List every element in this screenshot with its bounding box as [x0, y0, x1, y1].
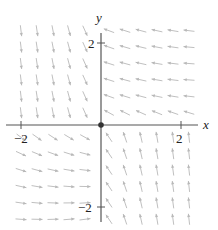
arrowhead-icon	[123, 198, 126, 202]
arrowhead-icon	[152, 45, 155, 48]
y-axis-label: y	[94, 10, 102, 25]
arrowhead-icon	[23, 218, 26, 221]
vector-field-plot: x y 2 −2 −2 2	[0, 0, 218, 230]
arrowhead-icon	[71, 218, 74, 221]
arrowhead-icon	[139, 214, 142, 217]
arrowhead-icon	[152, 94, 155, 97]
arrowhead-icon	[184, 78, 187, 81]
arrowhead-icon	[123, 148, 126, 152]
arrowhead-icon	[152, 29, 155, 32]
arrowhead-icon	[184, 45, 187, 48]
arrowhead-icon	[139, 148, 142, 151]
origin-dot	[98, 122, 104, 128]
arrowhead-icon	[55, 218, 58, 221]
arrowhead-icon	[52, 33, 55, 36]
arrowhead-icon	[139, 181, 142, 184]
arrowhead-icon	[52, 98, 55, 101]
x-tick-label-2: 2	[176, 131, 183, 146]
arrowhead-icon	[52, 49, 55, 52]
arrowhead-icon	[52, 115, 55, 118]
arrowhead-icon	[123, 165, 126, 169]
arrowhead-icon	[55, 169, 58, 172]
arrowhead-icon	[123, 214, 126, 218]
arrowhead-icon	[136, 61, 139, 64]
arrowhead-icon	[52, 65, 55, 68]
x-tick-label-neg2: −2	[14, 131, 28, 146]
arrowhead-icon	[139, 165, 142, 168]
arrowhead-icon	[123, 132, 126, 136]
arrowhead-icon	[71, 185, 74, 188]
arrowhead-icon	[136, 78, 139, 81]
arrowhead-icon	[168, 110, 172, 113]
arrowhead-icon	[71, 201, 74, 204]
arrowhead-icon	[55, 201, 58, 204]
arrowhead-icon	[139, 132, 142, 135]
arrowhead-icon	[39, 218, 42, 221]
arrowhead-icon	[52, 82, 55, 85]
arrowhead-icon	[23, 185, 26, 188]
arrowhead-icon	[39, 202, 42, 205]
arrowhead-icon	[136, 45, 139, 48]
y-tick-label-2: 2	[88, 36, 95, 51]
arrowhead-icon	[139, 198, 142, 201]
x-axis-label: x	[202, 117, 209, 132]
arrowhead-icon	[123, 181, 126, 185]
arrowhead-icon	[184, 62, 187, 65]
arrowhead-icon	[104, 45, 108, 48]
arrowhead-icon	[87, 185, 90, 188]
y-tick-label-neg2: −2	[78, 200, 92, 215]
